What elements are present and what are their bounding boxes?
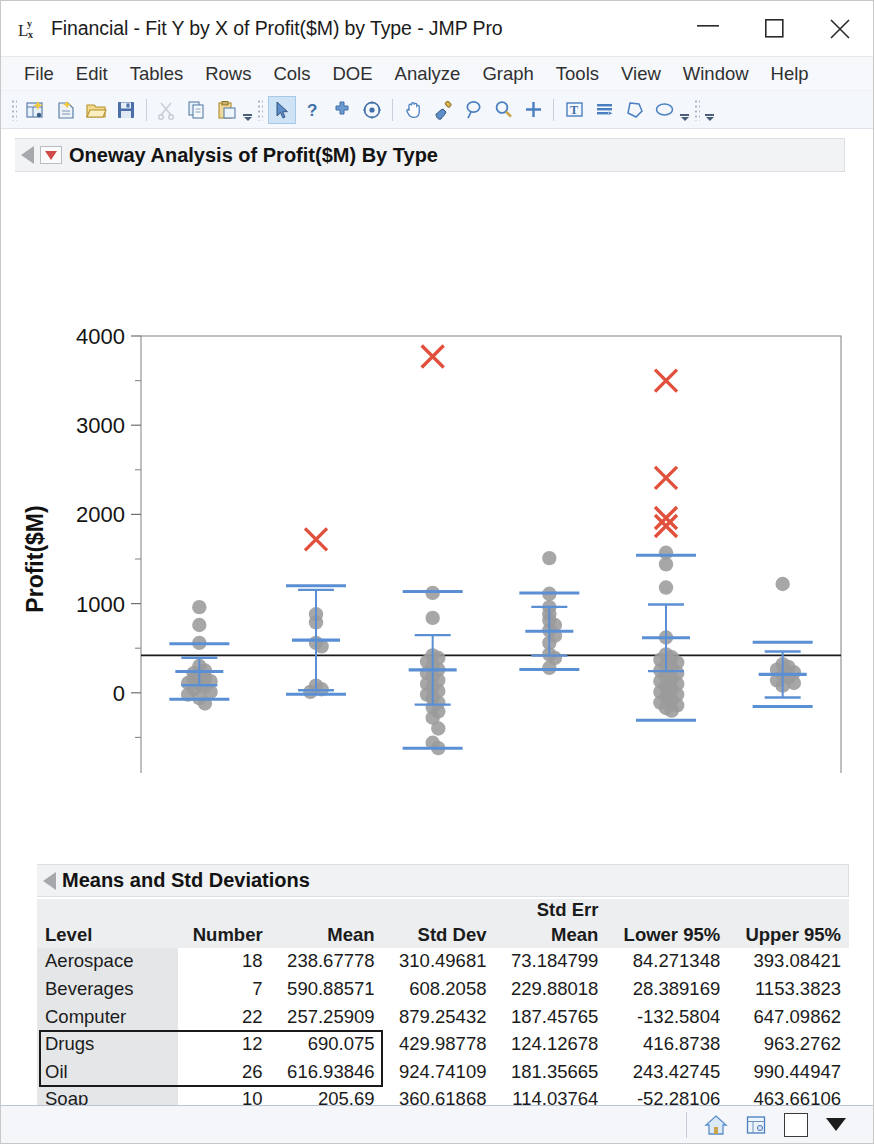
table-row[interactable]: Computer22257.25909879.25432187.45765-13… xyxy=(37,1004,849,1032)
text-annotate-icon[interactable]: T xyxy=(560,96,588,124)
ellipse-icon[interactable] xyxy=(650,96,678,124)
cell-level[interactable]: Computer xyxy=(37,1004,178,1032)
cell-upper95[interactable]: 963.2762 xyxy=(728,1031,849,1059)
hand-grabber-icon[interactable] xyxy=(399,96,427,124)
cell-mean[interactable]: 238.67778 xyxy=(271,948,383,976)
cell-std-err-mean[interactable]: 229.88018 xyxy=(494,976,606,1004)
toolbar-overflow-button[interactable] xyxy=(242,97,253,123)
column-header-lower-95[interactable]: Lower 95% xyxy=(606,924,728,949)
polygon-icon[interactable] xyxy=(620,96,648,124)
cell-lower95[interactable]: 28.389169 xyxy=(606,976,728,1004)
menu-view[interactable]: View xyxy=(610,60,672,88)
cell-std-dev[interactable]: 879.25432 xyxy=(383,1004,495,1032)
copy-icon[interactable] xyxy=(183,96,211,124)
toolbar-overflow-button-2[interactable] xyxy=(679,97,690,123)
new-script-icon[interactable] xyxy=(52,96,80,124)
plus-crosshair-icon[interactable] xyxy=(519,96,547,124)
minimize-button[interactable] xyxy=(675,1,741,56)
arrow-select-icon[interactable] xyxy=(268,96,296,124)
cell-std-dev[interactable]: 429.98778 xyxy=(383,1031,495,1059)
home-icon[interactable] xyxy=(701,1112,731,1138)
cell-number[interactable]: 12 xyxy=(178,1031,271,1059)
cell-upper95[interactable]: 463.66106 xyxy=(728,1086,849,1105)
cell-mean[interactable]: 690.075 xyxy=(271,1031,383,1059)
cell-mean[interactable]: 205.69 xyxy=(271,1086,383,1105)
cell-std-err-mean[interactable]: 187.45765 xyxy=(494,1004,606,1032)
table-row[interactable]: Drugs12690.075429.98778124.12678416.8738… xyxy=(37,1031,849,1059)
disclosure-triangle-icon[interactable] xyxy=(43,872,56,890)
toolbar-grip-2[interactable] xyxy=(257,99,263,121)
cell-level[interactable]: Soap xyxy=(37,1086,178,1105)
menu-edit[interactable]: Edit xyxy=(65,60,119,88)
table-row[interactable]: Beverages7590.88571608.2058229.8801828.3… xyxy=(37,976,849,1004)
cell-level[interactable]: Aerospace xyxy=(37,948,178,976)
column-header-std-dev[interactable]: Std Dev xyxy=(383,924,495,949)
cell-upper95[interactable]: 990.44947 xyxy=(728,1059,849,1087)
column-header-std-err-mean[interactable]: Mean xyxy=(494,924,606,949)
black-down-triangle-icon[interactable] xyxy=(821,1112,851,1138)
open-folder-icon[interactable] xyxy=(82,96,110,124)
menu-doe[interactable]: DOE xyxy=(321,60,383,88)
cell-upper95[interactable]: 393.08421 xyxy=(728,948,849,976)
cell-std-err-mean[interactable]: 124.12678 xyxy=(494,1031,606,1059)
cell-level[interactable]: Beverages xyxy=(37,976,178,1004)
simple-shape-icon[interactable] xyxy=(590,96,618,124)
red-triangle-hotspot-icon[interactable] xyxy=(40,146,62,164)
cell-std-dev[interactable]: 360.61868 xyxy=(383,1086,495,1105)
cell-std-dev[interactable]: 608.2058 xyxy=(383,976,495,1004)
lasso-icon[interactable] xyxy=(459,96,487,124)
cell-level[interactable]: Drugs xyxy=(37,1031,178,1059)
menu-file[interactable]: File xyxy=(13,60,65,88)
oneway-section-header[interactable]: Oneway Analysis of Profit($M) By Type xyxy=(15,138,845,172)
paint-brush-icon[interactable] xyxy=(429,96,457,124)
maximize-button[interactable] xyxy=(741,1,807,56)
cell-lower95[interactable]: 416.8738 xyxy=(606,1031,728,1059)
save-icon[interactable] xyxy=(112,96,140,124)
cell-number[interactable]: 10 xyxy=(178,1086,271,1105)
cell-std-err-mean[interactable]: 73.184799 xyxy=(494,948,606,976)
new-data-table-icon[interactable] xyxy=(22,96,50,124)
cell-std-err-mean[interactable]: 181.35665 xyxy=(494,1059,606,1087)
cell-lower95[interactable]: -52.28106 xyxy=(606,1086,728,1105)
cell-lower95[interactable]: 84.271348 xyxy=(606,948,728,976)
cell-number[interactable]: 7 xyxy=(178,976,271,1004)
menu-analyze[interactable]: Analyze xyxy=(384,60,472,88)
white-square-icon[interactable] xyxy=(781,1112,811,1138)
cut-scissors-icon[interactable] xyxy=(153,96,181,124)
means-section-header[interactable]: Means and Std Deviations xyxy=(37,864,849,897)
menu-graph[interactable]: Graph xyxy=(471,60,544,88)
scroll-target-icon[interactable] xyxy=(358,96,386,124)
cell-number[interactable]: 18 xyxy=(178,948,271,976)
cell-lower95[interactable]: -132.5804 xyxy=(606,1004,728,1032)
cell-mean[interactable]: 616.93846 xyxy=(271,1059,383,1087)
cell-std-dev[interactable]: 310.49681 xyxy=(383,948,495,976)
menu-rows[interactable]: Rows xyxy=(194,60,262,88)
toolbar-overflow-button-3[interactable] xyxy=(704,97,715,123)
cell-upper95[interactable]: 1153.3823 xyxy=(728,976,849,1004)
magnifier-icon[interactable] xyxy=(489,96,517,124)
toolbar-grip-3[interactable] xyxy=(694,99,700,121)
toolbar-grip[interactable] xyxy=(11,99,17,121)
paste-icon[interactable] xyxy=(213,96,241,124)
menu-tools[interactable]: Tools xyxy=(545,60,610,88)
cell-mean[interactable]: 590.88571 xyxy=(271,976,383,1004)
disclosure-triangle-icon[interactable] xyxy=(21,146,34,164)
cell-upper95[interactable]: 647.09862 xyxy=(728,1004,849,1032)
column-header-mean[interactable]: Mean xyxy=(271,924,383,949)
menu-tables[interactable]: Tables xyxy=(119,60,194,88)
cell-number[interactable]: 22 xyxy=(178,1004,271,1032)
data-table-icon[interactable] xyxy=(741,1112,771,1138)
table-row[interactable]: Oil26616.93846924.74109181.35665243.4274… xyxy=(37,1059,849,1087)
cell-level[interactable]: Oil xyxy=(37,1059,178,1087)
close-button[interactable] xyxy=(807,1,873,56)
cell-std-dev[interactable]: 924.74109 xyxy=(383,1059,495,1087)
menu-window[interactable]: Window xyxy=(672,60,760,88)
column-header-level[interactable]: Level xyxy=(37,924,178,949)
question-help-icon[interactable]: ? xyxy=(298,96,326,124)
table-row[interactable]: Soap10205.69360.61868114.03764-52.281064… xyxy=(37,1086,849,1105)
cell-lower95[interactable]: 243.42745 xyxy=(606,1059,728,1087)
column-header-number[interactable]: Number xyxy=(178,924,271,949)
column-header-upper-95[interactable]: Upper 95% xyxy=(728,924,849,949)
cell-number[interactable]: 26 xyxy=(178,1059,271,1087)
crosshair-icon[interactable] xyxy=(328,96,356,124)
